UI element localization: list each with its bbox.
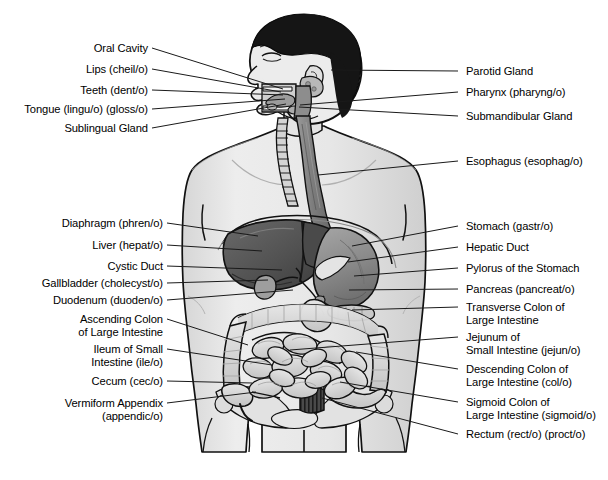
label-jejunum: Jejunum of Small Intestine (jejun/o) [466, 331, 580, 356]
label-transverse-colon: Transverse Colon of Large Intestine [466, 301, 564, 326]
label-sublingual-gland: Sublingual Gland [53, 122, 148, 135]
label-pancreas: Pancreas (pancreat/o) [466, 283, 575, 296]
label-duodenum: Duodenum (duoden/o) [31, 294, 163, 307]
label-tongue: Tongue (lingu/o) (gloss/o) [13, 103, 148, 116]
label-teeth: Teeth (dent/o) [68, 84, 148, 97]
label-vermiform-appendix: Vermiform Appendix (appendic/o) [17, 397, 163, 422]
label-rectum: Rectum (rect/o) (proct/o) [466, 428, 585, 441]
label-cecum: Cecum (cec/o) [68, 375, 163, 388]
label-diaphragm: Diaphragm (phren/o) [36, 217, 163, 230]
label-esophagus: Esophagus (esophag/o) [466, 155, 583, 168]
label-pylorus: Pylorus of the Stomach [466, 262, 579, 275]
label-oral-cavity: Oral Cavity [85, 42, 148, 55]
label-parotid-gland: Parotid Gland [466, 65, 533, 78]
digestive-system-diagram: Oral CavityLips (cheil/o)Teeth (dent/o)T… [0, 0, 608, 480]
label-ileum: Ileum of Small Intestine (ile/o) [52, 343, 163, 368]
label-liver: Liver (hepat/o) [61, 239, 163, 252]
label-hepatic-duct: Hepatic Duct [466, 241, 529, 254]
label-ascending-colon: Ascending Colon of Large Intestine [33, 313, 163, 338]
label-stomach: Stomach (gastr/o) [466, 220, 553, 233]
label-sigmoid-colon: Sigmoid Colon of Large Intestine (sigmoi… [466, 396, 596, 421]
label-cystic-duct: Cystic Duct [71, 260, 163, 273]
label-pharynx: Pharynx (pharyng/o) [466, 86, 565, 99]
label-gallbladder: Gallbladder (cholecyst/o) [12, 277, 163, 290]
label-descending-colon: Descending Colon of Large Intestine (col… [466, 363, 572, 388]
label-submandibular-gland: Submandibular Gland [466, 110, 572, 123]
label-lips: Lips (cheil/o) [71, 63, 148, 76]
